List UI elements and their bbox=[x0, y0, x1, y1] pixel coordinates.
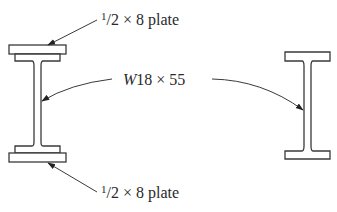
diagram-canvas: 1/2 × 8 plate W18 × 55 1/2 × 8 plate bbox=[0, 0, 337, 212]
bottom-cover-plate bbox=[9, 153, 66, 162]
bottom-plate-label: 1/2 × 8 plate bbox=[101, 183, 179, 202]
bottom-plate-leader bbox=[48, 163, 97, 192]
top-cover-plate bbox=[9, 45, 66, 54]
top-plate-leader bbox=[48, 20, 97, 45]
top-plate-rest: × 8 plate bbox=[119, 11, 179, 29]
built-up-section bbox=[9, 45, 66, 162]
wide-flange-label: W18 × 55 bbox=[123, 71, 185, 88]
wide-flange-rest: 18 × 55 bbox=[136, 71, 185, 88]
right-w-shape bbox=[285, 52, 330, 159]
top-plate-frac-den: 2 bbox=[111, 11, 119, 28]
left-w-shape bbox=[15, 54, 60, 153]
bottom-plate-rest: × 8 plate bbox=[119, 184, 179, 202]
w-right-leader bbox=[212, 79, 303, 110]
bottom-plate-frac-den: 2 bbox=[111, 184, 119, 201]
plain-w-section bbox=[285, 52, 330, 159]
w-left-leader bbox=[42, 79, 112, 101]
top-plate-label: 1/2 × 8 plate bbox=[101, 10, 179, 29]
